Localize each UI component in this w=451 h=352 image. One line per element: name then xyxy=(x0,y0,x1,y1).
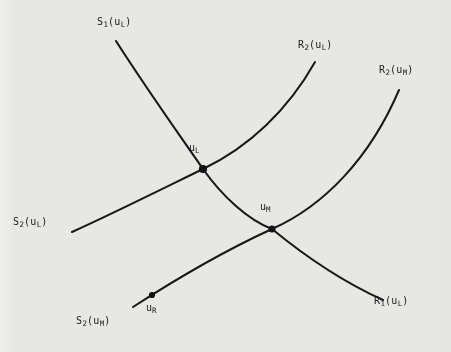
curve-label-r1-uL: R1(uL) xyxy=(374,296,409,308)
point-label-uM: uM xyxy=(260,202,271,214)
curve-label-r2-uM: R2(uM) xyxy=(379,65,414,77)
label-paren-close: ) xyxy=(407,64,413,75)
point-label-uR: uR xyxy=(146,303,157,315)
wave-curve-figure: S1(uL) R2(uL) R2(uM) S2(uL) S2(uM) R1(uL… xyxy=(0,0,451,352)
label-paren-close: ) xyxy=(104,315,110,326)
curve-s1-uL-lower xyxy=(203,169,272,229)
curve-label-s1-uL: S1(uL) xyxy=(97,17,132,29)
label-paren-close: ) xyxy=(326,39,332,50)
point-label-sub: R xyxy=(152,306,157,315)
point-label-uL: uL xyxy=(189,143,200,155)
label-paren-close: ) xyxy=(402,295,408,306)
point-label-sub: L xyxy=(195,146,200,155)
curve-r2-uL xyxy=(203,62,315,169)
curve-s2-uL xyxy=(72,169,203,232)
label-paren-close: ) xyxy=(41,216,47,227)
node-dot-uL xyxy=(199,165,207,173)
node-dot-uR xyxy=(149,292,155,298)
node-dot-uM xyxy=(268,225,275,232)
curve-label-s2-uL: S2(uL) xyxy=(13,217,48,229)
curve-r1-uL xyxy=(272,229,383,300)
point-label-sub: M xyxy=(266,205,271,214)
label-paren-close: ) xyxy=(125,16,131,27)
curve-label-r2-uL: R2(uL) xyxy=(298,40,333,52)
curve-label-s2-uM: S2(uM) xyxy=(76,316,111,328)
curve-r2-uM xyxy=(272,90,399,229)
